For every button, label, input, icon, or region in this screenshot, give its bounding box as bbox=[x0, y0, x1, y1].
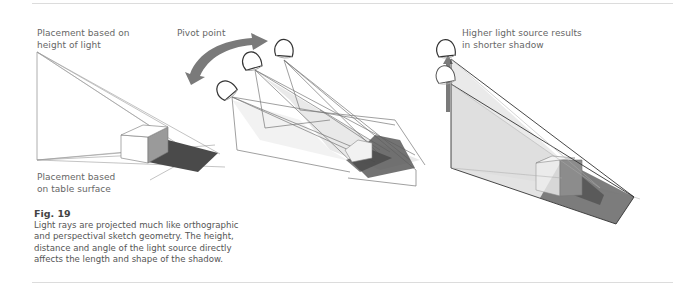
cube-shaded-face bbox=[560, 160, 582, 196]
figure-caption: Fig. 19 Light rays are projected much li… bbox=[34, 208, 244, 266]
label-line: Placement based bbox=[37, 171, 115, 183]
label-line: Placement based on bbox=[37, 27, 129, 39]
caption-body: Light rays are projected much like ortho… bbox=[34, 220, 244, 266]
label-table-surface: Placement based on table surface bbox=[37, 171, 115, 195]
label-line: in shorter shadow bbox=[462, 39, 582, 51]
label-line: Pivot point bbox=[177, 27, 225, 39]
lamp-icon-high bbox=[273, 38, 294, 60]
label-line: Higher light source results bbox=[462, 27, 582, 39]
cube-lit-face bbox=[536, 158, 560, 196]
label-line: on table surface bbox=[37, 183, 115, 195]
cube-lit-face bbox=[121, 135, 148, 163]
label-pivot-point: Pivot point bbox=[177, 27, 225, 39]
right-diagram bbox=[433, 37, 640, 224]
caption-line: Light rays are projected much like ortho… bbox=[34, 220, 244, 231]
caption-line: and perspectival sketch geometry. The he… bbox=[34, 231, 244, 242]
caption-line: distance and angle of the light source d… bbox=[34, 243, 244, 254]
figure-number: Fig. 19 bbox=[34, 208, 244, 220]
lamp-icon-mid bbox=[239, 49, 264, 75]
label-line: height of light bbox=[37, 39, 129, 51]
label-height-of-light: Placement based on height of light bbox=[37, 27, 129, 51]
middle-diagram bbox=[185, 33, 425, 186]
caption-line: affects the length and shape of the shad… bbox=[34, 254, 244, 265]
lamp-icon-high bbox=[434, 37, 458, 61]
lamp-icon-low bbox=[213, 77, 239, 103]
label-higher-light-source: Higher light source results in shorter s… bbox=[462, 27, 582, 51]
